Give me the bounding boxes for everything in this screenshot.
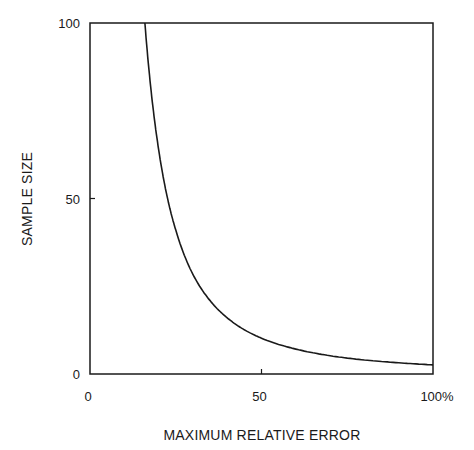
y-tick-label: 50 [66, 192, 80, 207]
y-tick-label: 0 [73, 367, 80, 382]
plot-frame [90, 23, 433, 374]
sample-size-curve [145, 23, 433, 365]
x-tick-label: 50 [252, 389, 266, 404]
x-tick-label: 0 [84, 389, 91, 404]
x-tick-label: 100% [420, 389, 454, 404]
x-axis-label: MAXIMUM RELATIVE ERROR [163, 427, 360, 443]
y-tick-label: 100 [58, 16, 80, 31]
sample-size-chart: 050100%050100 SAMPLE SIZE MAXIMUM RELATI… [0, 0, 474, 450]
y-axis-label: SAMPLE SIZE [19, 152, 35, 246]
